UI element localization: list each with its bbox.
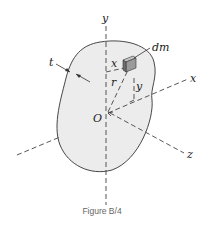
y-distance-label: y <box>135 80 143 93</box>
origin-label: O <box>93 112 102 125</box>
negative-z-axis <box>17 137 60 155</box>
thickness-label: t <box>49 56 54 69</box>
x-axis-label: x <box>190 72 197 85</box>
z-axis-label: z <box>186 148 193 161</box>
dm-label: dm <box>152 41 169 54</box>
x-distance-label: x <box>111 57 118 70</box>
figure-caption: Figure B/4 <box>0 206 204 216</box>
thin-plate-figure: y x z O dm t x y r <box>0 0 204 229</box>
y-axis-label: y <box>101 12 109 25</box>
r-label: r <box>111 76 117 89</box>
